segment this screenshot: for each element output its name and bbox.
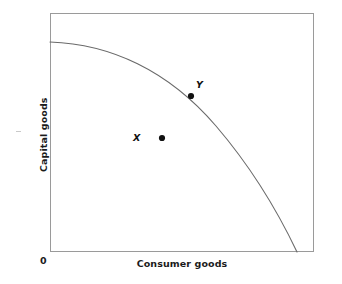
ppf-figure: Y X 0 Consumer goods Capital goods xyxy=(0,0,342,284)
x-axis-title: Consumer goods xyxy=(50,258,314,269)
point-y-label: Y xyxy=(196,79,203,90)
point-y-marker xyxy=(188,93,194,99)
origin-label: 0 xyxy=(40,255,47,266)
point-x-marker xyxy=(159,135,165,141)
ppf-curve xyxy=(50,42,297,252)
plot-canvas xyxy=(0,0,342,284)
point-x-label: X xyxy=(133,132,140,143)
y-axis-title: Capital goods xyxy=(38,97,49,172)
